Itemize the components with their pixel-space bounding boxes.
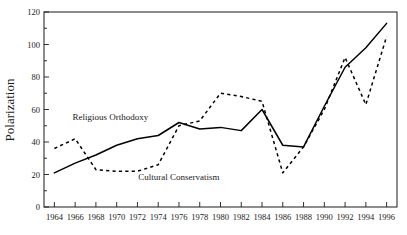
- series-annotations: Religious OrthodoxyCultural Conservatism: [73, 112, 220, 182]
- polarization-line-chart: 020406080100120 196419661968197019721974…: [0, 0, 407, 235]
- x-axis-ticks: [54, 202, 386, 207]
- x-tick-label-1968: 1968: [87, 212, 104, 222]
- x-tick-label-1992: 1992: [337, 212, 354, 222]
- y-tick-label-40: 40: [32, 137, 41, 147]
- x-tick-label-1978: 1978: [191, 212, 208, 222]
- x-tick-label-1972: 1972: [129, 212, 146, 222]
- x-tick-label-1974: 1974: [150, 212, 168, 222]
- x-tick-label-1990: 1990: [316, 212, 333, 222]
- x-tick-label-1982: 1982: [233, 212, 250, 222]
- y-tick-label-80: 80: [32, 72, 41, 82]
- y-tick-label-60: 60: [32, 105, 41, 115]
- plot-area-border: [44, 12, 397, 207]
- x-tick-label-1970: 1970: [108, 212, 125, 222]
- x-tick-label-1976: 1976: [170, 212, 187, 222]
- x-tick-label-1964: 1964: [46, 212, 64, 222]
- y-tick-label-120: 120: [27, 7, 40, 17]
- x-axis-tick-labels: 1964196619681970197219741976197819801982…: [46, 212, 395, 222]
- chart-figure: 020406080100120 196419661968197019721974…: [0, 0, 407, 235]
- series-line-cultural-conservatism: [54, 36, 386, 173]
- x-tick-label-1994: 1994: [357, 212, 375, 222]
- y-tick-label-100: 100: [27, 40, 40, 50]
- x-tick-label-1984: 1984: [254, 212, 272, 222]
- y-tick-label-0: 0: [36, 202, 40, 212]
- y-tick-label-20: 20: [32, 170, 41, 180]
- plot-frame: [44, 12, 397, 207]
- y-axis-tick-labels: 020406080100120: [27, 7, 40, 212]
- x-tick-label-1980: 1980: [212, 212, 229, 222]
- series-annotation-1: Cultural Conservatism: [138, 172, 219, 182]
- y-axis-ticks: [44, 12, 49, 207]
- x-tick-label-1996: 1996: [378, 212, 395, 222]
- x-tick-label-1966: 1966: [67, 212, 84, 222]
- series-annotation-0: Religious Orthodoxy: [73, 112, 149, 122]
- x-tick-label-1986: 1986: [274, 212, 291, 222]
- x-tick-label-1988: 1988: [295, 212, 312, 222]
- series-line-religious-orthodoxy: [54, 23, 386, 173]
- data-series-group: [54, 23, 386, 173]
- y-axis-title: Polarization: [2, 78, 17, 141]
